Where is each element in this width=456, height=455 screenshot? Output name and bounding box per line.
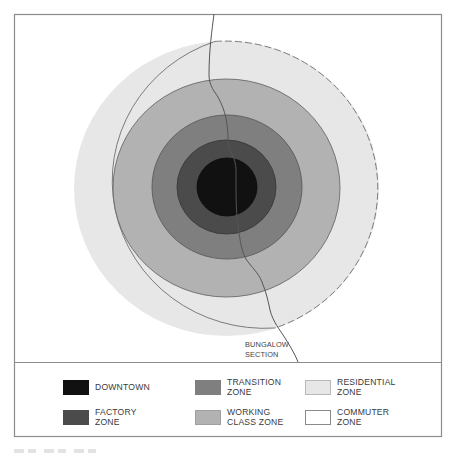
working-class-swatch — [195, 410, 221, 425]
legend-item-downtown: DOWNTOWN — [63, 380, 165, 395]
legend-label: TRANSITION ZONE — [227, 377, 297, 397]
bungalow-section-label: BUNGALOW SECTION — [245, 340, 289, 359]
legend-item-transition: TRANSITION ZONE — [195, 380, 297, 397]
legend-item-factory: FACTORY ZONE — [63, 410, 165, 427]
legend-label: RESIDENTIAL ZONE — [337, 377, 407, 397]
legend-label: COMMUTER ZONE — [337, 407, 407, 427]
caption-fragment — [14, 449, 104, 453]
legend-label: DOWNTOWN — [95, 382, 165, 392]
downtown-zone — [197, 158, 257, 216]
legend-item-residential: RESIDENTIAL ZONE — [305, 380, 407, 397]
transition-swatch — [195, 380, 221, 395]
legend: DOWNTOWN FACTORY ZONE TRANSITION ZONE WO… — [15, 363, 442, 437]
downtown-swatch — [63, 380, 89, 395]
legend-label: FACTORY ZONE — [95, 407, 165, 427]
legend-item-working-class: WORKING CLASS ZONE — [195, 410, 297, 427]
factory-swatch — [63, 410, 89, 425]
commuter-swatch — [305, 410, 331, 425]
legend-item-commuter: COMMUTER ZONE — [305, 410, 407, 427]
legend-label: WORKING CLASS ZONE — [227, 407, 297, 427]
residential-swatch — [305, 380, 331, 395]
